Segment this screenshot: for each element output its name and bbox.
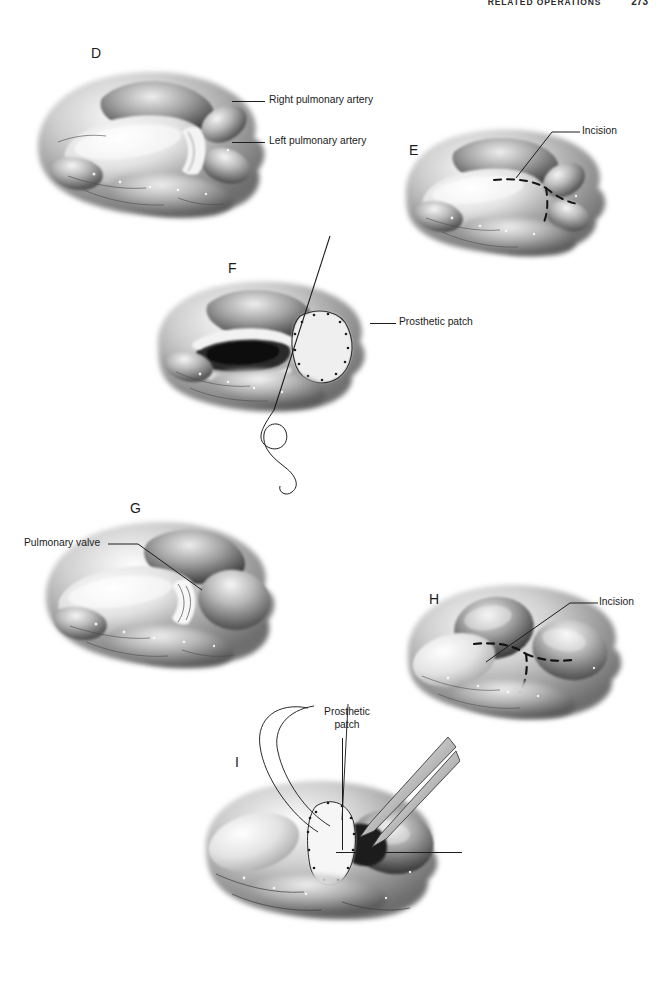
callout-right-pulmonary-artery: Right pulmonary artery: [269, 94, 373, 107]
leader-line-left-pulmonary-artery: [232, 142, 265, 143]
atlas-page: RELATED OPERATIONS 273: [0, 0, 666, 989]
callout-prosthetic-patch-panel-f: Prosthetic patch: [399, 316, 473, 329]
artist-signature-panel-i: [404, 898, 406, 904]
page-number: 273: [631, 0, 648, 7]
leader-line-right-pulmonary-artery: [232, 101, 265, 102]
panel-letter-g: G: [130, 501, 141, 515]
callout-incision-panel-e: Incision: [582, 125, 617, 138]
panel-letter-e: E: [409, 143, 419, 157]
leader-line-incision-panel-h: [460, 598, 610, 668]
leader-line-panel-i-right: [336, 852, 462, 853]
running-head: RELATED OPERATIONS 273: [488, 0, 648, 7]
panel-letter-i: I: [235, 755, 239, 769]
callout-prosthetic-patch-panel-i: Prosthetic patch: [311, 706, 383, 731]
callout-incision-panel-h: Incision: [599, 596, 634, 609]
callout-left-pulmonary-artery: Left pulmonary artery: [269, 135, 366, 148]
running-head-title: RELATED OPERATIONS: [488, 0, 602, 7]
panel-letter-f: F: [228, 261, 237, 275]
leader-line-pulmonary-valve: [108, 538, 218, 596]
panel-letter-h: H: [429, 592, 439, 606]
panel-letter-d: D: [91, 46, 101, 60]
callout-pulmonary-valve: Pulmonary valve: [24, 537, 100, 550]
leader-line-incision-panel-e: [500, 120, 590, 190]
leader-line-prosthetic-patch-panel-i: [342, 738, 343, 850]
leader-line-prosthetic-patch-panel-f: [370, 323, 396, 324]
suture-thread-panel-f: [228, 232, 408, 502]
artist-signature-panel-f: [256, 372, 258, 378]
